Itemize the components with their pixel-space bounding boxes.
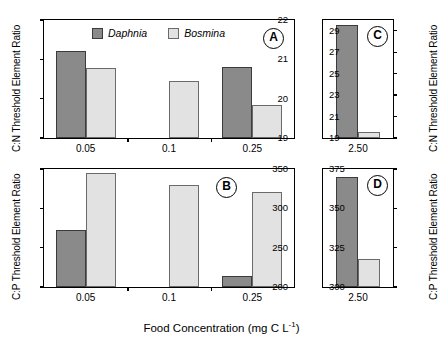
y-tick-label: 25 [329, 69, 340, 79]
y-tick-mark [40, 168, 44, 169]
y-tick-label: 19 [277, 133, 288, 143]
y-tick-mark [393, 286, 397, 287]
y-tick-mark [393, 116, 397, 117]
x-tick-label: 0.05 [76, 292, 95, 303]
y-tick-mark [393, 137, 397, 138]
y-tick-label: 350 [272, 164, 288, 174]
x-tick-mark [211, 287, 212, 291]
panel-b: B 2002503003500.050.10.25 [43, 168, 295, 288]
bar-daphnia [56, 51, 86, 138]
x-tick-label: 2.50 [348, 143, 367, 154]
bar-daphnia [336, 177, 358, 287]
panel-a-badge: A [263, 28, 284, 49]
figure-root: C:N Threshold Element Ratio A Daphnia Bo… [0, 0, 443, 345]
y-tick-label: 20 [277, 94, 288, 104]
x-tick-label: 0.1 [162, 292, 176, 303]
panel-d: D 3003253503752.50 [322, 168, 394, 288]
y-tick-mark [393, 94, 397, 95]
y-tick-label: 200 [272, 282, 288, 292]
x-tick-mark [127, 138, 128, 142]
bar-bosmina [86, 173, 116, 287]
panel-a: A Daphnia Bosmina 192021220.050.10.25 [43, 19, 295, 139]
x-tick-label: 0.1 [162, 143, 176, 154]
x-tick-label: 2.50 [348, 292, 367, 303]
x-axis-title: Food Concentration (mg C L-1) [0, 320, 443, 334]
legend-label-daphnia: Daphnia [108, 27, 147, 39]
y-tick-label: 19 [329, 133, 340, 143]
panel-b-plot-area [44, 169, 294, 287]
y-tick-label: 250 [272, 243, 288, 253]
y-tick-mark [393, 208, 397, 209]
y-tick-label: 22 [277, 15, 288, 25]
bar-bosmina [358, 259, 380, 287]
legend-swatch-daphnia [92, 28, 103, 39]
bar-bosmina [169, 185, 199, 287]
y-tick-label: 375 [329, 164, 345, 174]
y-tick-mark [40, 208, 44, 209]
y-tick-label: 300 [329, 282, 345, 292]
legend-label-bosmina: Bosmina [184, 27, 225, 39]
y-tick-mark [40, 19, 44, 20]
panel-d-y-axis-title: C:P Threshold Element Ratio [428, 174, 439, 300]
y-tick-label: 325 [329, 243, 345, 253]
y-tick-mark [40, 137, 44, 138]
bar-daphnia [56, 230, 86, 287]
panel-c: C 1921232527292.50 [322, 19, 394, 139]
x-axis-title-exponent: -1 [289, 320, 296, 329]
bar-daphnia [222, 276, 252, 287]
y-tick-mark [393, 168, 397, 169]
y-tick-mark [40, 247, 44, 248]
panel-d-badge: D [367, 175, 388, 196]
x-tick-mark [127, 287, 128, 291]
x-axis-title-text: Food Concentration (mg C L [143, 322, 288, 334]
x-tick-mark [211, 138, 212, 142]
y-tick-mark [40, 59, 44, 60]
panel-a-y-axis-title: C:N Threshold Element Ratio [11, 25, 22, 152]
panel-b-y-axis-title: C:P Threshold Element Ratio [11, 174, 22, 300]
legend-swatch-bosmina [168, 28, 179, 39]
panel-c-y-axis-title: C:N Threshold Element Ratio [428, 25, 439, 152]
x-axis-title-tail: ) [296, 322, 300, 334]
panel-c-badge: C [367, 26, 388, 47]
y-tick-label: 29 [329, 26, 340, 36]
y-tick-mark [393, 247, 397, 248]
y-tick-label: 23 [329, 90, 340, 100]
y-tick-mark [393, 30, 397, 31]
y-tick-label: 27 [329, 47, 340, 57]
y-tick-mark [40, 98, 44, 99]
y-tick-mark [393, 73, 397, 74]
y-tick-label: 350 [329, 204, 345, 214]
chart-legend: Daphnia Bosmina [92, 27, 225, 39]
x-tick-label: 0.25 [243, 143, 262, 154]
y-tick-mark [393, 52, 397, 53]
x-tick-label: 0.25 [243, 292, 262, 303]
y-tick-label: 21 [277, 55, 288, 65]
y-tick-label: 300 [272, 204, 288, 214]
bar-daphnia [222, 67, 252, 138]
bar-bosmina [358, 132, 380, 138]
panel-b-badge: B [216, 177, 237, 198]
bar-bosmina [86, 68, 116, 138]
x-tick-label: 0.05 [76, 143, 95, 154]
y-tick-label: 21 [329, 112, 340, 122]
y-tick-mark [40, 286, 44, 287]
bar-bosmina [169, 81, 199, 138]
